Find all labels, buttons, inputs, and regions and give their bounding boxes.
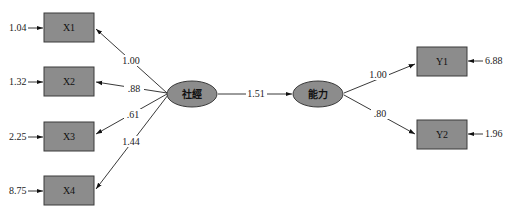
- error-x2: 1.32: [9, 76, 43, 87]
- observed-x1: X1: [44, 13, 94, 42]
- error-y2: 1.96: [468, 128, 503, 139]
- error-x3: 2.25: [9, 131, 43, 142]
- coef-ses-x4: 1.44: [122, 136, 140, 147]
- error-value-x4: 8.75: [9, 185, 27, 196]
- path-ses-x3: .61: [96, 94, 167, 134]
- coef-ses-x1: 1.00: [122, 55, 140, 66]
- path-ses-ability: 1.51: [218, 88, 292, 99]
- observed-y1: Y1: [417, 47, 467, 76]
- error-value-y1: 6.88: [485, 55, 503, 66]
- coef-ability-y2: .80: [374, 108, 387, 119]
- error-value-y2: 1.96: [485, 128, 503, 139]
- error-value-x2: 1.32: [9, 76, 27, 87]
- error-x4: 8.75: [9, 185, 43, 196]
- sem-path-diagram: 1.00 .88 .61 1.44 1.51 1.00 .80 1.04 1.3…: [0, 0, 512, 219]
- observed-x2: X2: [44, 67, 94, 96]
- coef-ses-x3: .61: [127, 109, 140, 120]
- error-y1: 6.88: [468, 55, 503, 66]
- observed-label-y2: Y2: [436, 129, 448, 140]
- error-x1: 1.04: [9, 22, 43, 33]
- coef-ses-ability: 1.51: [247, 88, 265, 99]
- latent-ses: 社經: [167, 81, 217, 107]
- observed-label-x1: X1: [63, 22, 75, 33]
- latent-ability: 能力: [293, 81, 343, 107]
- latent-label-ability: 能力: [308, 88, 328, 100]
- observed-label-y1: Y1: [436, 56, 448, 67]
- observed-x4: X4: [44, 176, 94, 205]
- coef-ability-y1: 1.00: [369, 69, 387, 80]
- observed-label-x4: X4: [63, 185, 75, 196]
- error-value-x3: 2.25: [9, 131, 27, 142]
- observed-x3: X3: [44, 122, 94, 151]
- observed-y2: Y2: [417, 120, 467, 149]
- error-value-x1: 1.04: [9, 22, 27, 33]
- path-ability-y1: 1.00: [344, 64, 415, 93]
- observed-label-x2: X2: [63, 76, 75, 87]
- observed-label-x3: X3: [63, 131, 75, 142]
- latent-label-ses: 社經: [181, 88, 202, 100]
- coef-ses-x2: .88: [128, 83, 141, 94]
- path-ability-y2: .80: [344, 95, 415, 134]
